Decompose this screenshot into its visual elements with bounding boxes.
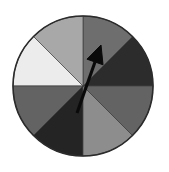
spinner-figure	[0, 0, 169, 172]
spinner-wheel-graphic[interactable]	[0, 0, 169, 172]
